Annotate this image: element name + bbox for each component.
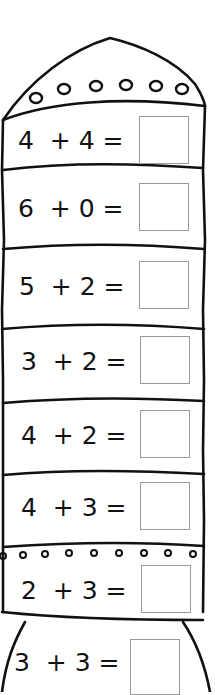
equation-text: 5 + 2 = bbox=[19, 274, 125, 299]
equation-text: 3 + 3 = bbox=[14, 650, 120, 675]
answer-box[interactable] bbox=[139, 116, 189, 164]
equation-text: 3 + 2 = bbox=[21, 349, 127, 374]
problem-row-8: 3 + 3 = bbox=[0, 642, 215, 692]
problem-row-1: 4 + 4 = bbox=[0, 115, 215, 165]
section-divider bbox=[3, 543, 204, 547]
problem-row-5: 4 + 2 = bbox=[0, 410, 215, 460]
answer-box[interactable] bbox=[139, 183, 189, 231]
nose-dots bbox=[30, 80, 188, 103]
answer-box[interactable] bbox=[130, 639, 180, 695]
answer-box[interactable] bbox=[140, 482, 190, 530]
answer-box[interactable] bbox=[141, 565, 191, 613]
equation-text: 4 + 2 = bbox=[21, 423, 127, 448]
equation-text: 2 + 3 = bbox=[21, 578, 127, 603]
section-divider bbox=[2, 325, 204, 329]
answer-box[interactable] bbox=[140, 410, 190, 458]
problem-row-3: 5 + 2 = bbox=[0, 261, 215, 311]
band-dots bbox=[0, 550, 196, 559]
problem-row-2: 6 + 0 = bbox=[0, 183, 215, 233]
equation-text: 6 + 0 = bbox=[18, 196, 124, 221]
equation-text: 4 + 3 = bbox=[21, 495, 127, 520]
problem-row-4: 3 + 2 = bbox=[0, 336, 215, 386]
answer-box[interactable] bbox=[139, 261, 189, 309]
section-divider bbox=[3, 471, 204, 475]
problem-row-6: 4 + 3 = bbox=[0, 482, 215, 532]
section-divider bbox=[3, 399, 204, 403]
problem-row-7: 2 + 3 = bbox=[0, 565, 215, 615]
equation-text: 4 + 4 = bbox=[18, 128, 124, 153]
answer-box[interactable] bbox=[140, 336, 190, 384]
section-divider bbox=[3, 245, 204, 249]
rocket-nose-cone bbox=[3, 38, 205, 120]
section-divider bbox=[3, 164, 203, 170]
